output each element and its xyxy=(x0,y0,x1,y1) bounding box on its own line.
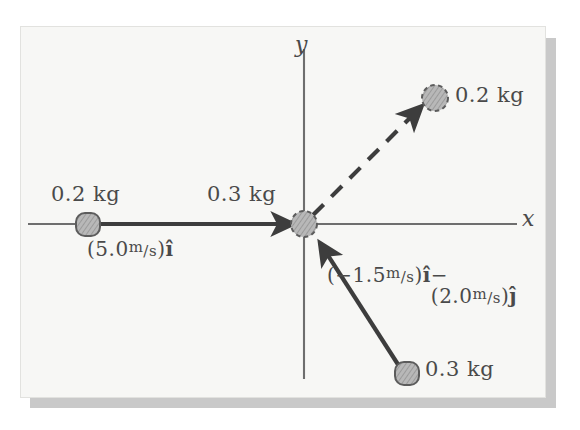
vec-lr-open-paren-2: ( xyxy=(431,284,439,308)
vec-lr-close-paren-2: ) xyxy=(501,284,509,308)
vec-left-magnitude: 5.0 xyxy=(95,237,128,261)
x-axis-label: x xyxy=(522,207,535,230)
mass-body-target-origin xyxy=(291,211,317,237)
mass-body-outgoing-upper-right xyxy=(422,85,448,111)
vector-label-incoming-left: (5.0m/s)î xyxy=(87,239,174,260)
mass-label-incoming-left: 0.2 kg xyxy=(51,183,120,205)
mass-outgoing-upper-right xyxy=(422,85,448,111)
vec-left-unit-numerator: m xyxy=(129,238,144,256)
vec-left-unit-denominator: /s xyxy=(143,242,157,260)
vec-left-unit-vector-i: î xyxy=(165,237,173,261)
vector-arrow-outgoing-upper-right xyxy=(313,107,421,215)
vec-lr-unit-numerator-2: m xyxy=(472,285,487,303)
mass-incoming-lower-right xyxy=(395,362,419,385)
vec-lr-close-paren-1: ) xyxy=(414,263,422,287)
vec-lr-unit-vector-j: ĵ xyxy=(509,284,517,308)
mass-incoming-left xyxy=(76,213,100,236)
vector-label-incoming-lower-right: (−1.5m/s)î− (2.0m/s)ĵ xyxy=(327,265,517,307)
vec-lr-unit-2: m/s xyxy=(472,285,501,303)
diagram-panel: y x 0.2 kg 0.3 kg 0.2 kg 0.3 kg (5.0m/s)… xyxy=(20,26,546,398)
mass-label-target-origin: 0.3 kg xyxy=(207,183,276,205)
vec-lr-magnitude-y: 2.0 xyxy=(439,284,472,308)
vec-lr-magnitude-x: −1.5 xyxy=(335,263,386,287)
mass-body-incoming-lower-right xyxy=(395,362,419,385)
mass-body-incoming-left xyxy=(76,213,100,236)
vec-lr-unit-vector-i: î xyxy=(423,263,431,287)
vec-lr-unit-denominator-1: /s xyxy=(401,268,415,286)
vec-lr-unit-1: m/s xyxy=(386,264,415,282)
vec-lr-unit-denominator-2: /s xyxy=(487,289,501,307)
figure-root: y x 0.2 kg 0.3 kg 0.2 kg 0.3 kg (5.0m/s)… xyxy=(0,0,580,430)
mass-label-outgoing-upper-right: 0.2 kg xyxy=(455,84,524,106)
vec-lr-unit-numerator-1: m xyxy=(386,264,401,282)
mass-label-incoming-lower-right: 0.3 kg xyxy=(425,358,494,380)
vec-left-unit: m/s xyxy=(129,238,158,256)
y-axis-label: y xyxy=(295,33,308,56)
mass-target-origin xyxy=(291,211,317,237)
vec-lr-line-2: (2.0m/s)ĵ xyxy=(327,286,517,307)
